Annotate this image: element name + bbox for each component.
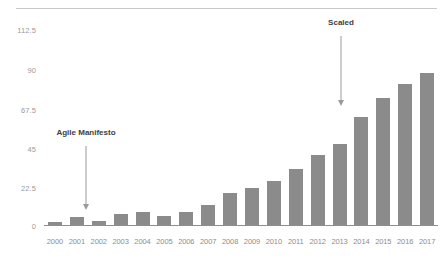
bar-2006: [179, 212, 193, 226]
bar-2016: [398, 84, 412, 226]
x-tick-label: 2017: [419, 237, 435, 246]
x-tick-slot: 2012: [307, 230, 329, 248]
bar-slot: [416, 26, 438, 226]
x-tick-slot: 2011: [285, 230, 307, 248]
annotation-label: Scaled: [328, 18, 354, 27]
x-tick-slot: 2008: [219, 230, 241, 248]
x-tick-slot: 2015: [372, 230, 394, 248]
annotation-arrow-head-icon: [338, 100, 344, 106]
bar-2010: [267, 181, 281, 226]
y-tick-label: 90: [27, 66, 36, 75]
x-tick-label: 2008: [222, 237, 238, 246]
bar-2017: [420, 73, 434, 226]
bar-slot: [44, 26, 66, 226]
x-tick-slot: 2016: [394, 230, 416, 248]
annotation-arrow-head-icon: [83, 204, 89, 210]
x-tick-label: 2014: [353, 237, 369, 246]
y-tick-label: 45: [27, 145, 36, 154]
y-axis: 112.5 90 67.5 45 22.5 0: [0, 26, 42, 227]
x-tick-label: 2004: [134, 237, 150, 246]
bar-slot: [66, 26, 88, 226]
bar-2011: [289, 169, 303, 226]
bar-slot: [372, 26, 394, 226]
x-tick-slot: 2014: [350, 230, 372, 248]
x-tick-label: 2005: [156, 237, 172, 246]
bar-slot: [132, 26, 154, 226]
y-tick-label: 112.5: [17, 26, 36, 35]
x-tick-label: 2002: [91, 237, 107, 246]
x-tick-label: 2000: [47, 237, 63, 246]
bar-slot: [307, 26, 329, 226]
x-tick-slot: 2003: [110, 230, 132, 248]
x-tick-label: 2012: [309, 237, 325, 246]
bar-2014: [354, 117, 368, 226]
annotation-label: Agile Manifesto: [56, 128, 115, 137]
annotation-arrow-line: [341, 36, 342, 102]
bar-series: [44, 26, 438, 226]
x-tick-slot: 2010: [263, 230, 285, 248]
bar-2012: [311, 155, 325, 226]
bar-2007: [201, 205, 215, 226]
bar-slot: [350, 26, 372, 226]
plot-area: [44, 26, 438, 226]
bar-2009: [245, 188, 259, 226]
bar-slot: [263, 26, 285, 226]
y-tick-label: 0: [32, 222, 36, 231]
x-tick-slot: 2006: [175, 230, 197, 248]
x-tick-slot: 2004: [132, 230, 154, 248]
bar-slot: [394, 26, 416, 226]
bar-slot: [88, 26, 110, 226]
x-tick-label: 2007: [200, 237, 216, 246]
annotation-arrow-line: [86, 146, 87, 206]
bar-2008: [223, 193, 237, 226]
x-tick-label: 2006: [178, 237, 194, 246]
bar-2013: [333, 144, 347, 226]
x-tick-slot: 2013: [329, 230, 351, 248]
x-tick-label: 2015: [375, 237, 391, 246]
x-tick-slot: 2001: [66, 230, 88, 248]
x-tick-slot: 2017: [416, 230, 438, 248]
bar-slot: [197, 26, 219, 226]
x-tick-label: 2003: [112, 237, 128, 246]
bar-slot: [219, 26, 241, 226]
x-tick-label: 2016: [397, 237, 413, 246]
x-tick-slot: 2009: [241, 230, 263, 248]
x-tick-label: 2009: [244, 237, 260, 246]
x-tick-label: 2013: [331, 237, 347, 246]
x-tick-slot: 2005: [153, 230, 175, 248]
x-tick-label: 2011: [288, 237, 304, 246]
top-divider: [16, 8, 437, 9]
bar-slot: [153, 26, 175, 226]
x-axis: 2000 2001 2002 2003 2004 2005 2006 2007 …: [44, 230, 438, 248]
x-tick-slot: 2002: [88, 230, 110, 248]
bar-chart: 112.5 90 67.5 45 22.5 0: [0, 0, 445, 259]
x-tick-slot: 2000: [44, 230, 66, 248]
y-tick-label: 22.5: [21, 184, 36, 193]
bar-slot: [175, 26, 197, 226]
bar-2004: [136, 212, 150, 226]
bar-slot: [110, 26, 132, 226]
bar-slot: [285, 26, 307, 226]
x-axis-line: [44, 225, 438, 226]
x-tick-label: 2010: [266, 237, 282, 246]
y-tick-label: 67.5: [21, 106, 36, 115]
x-tick-label: 2001: [69, 237, 85, 246]
x-tick-slot: 2007: [197, 230, 219, 248]
bar-2015: [376, 98, 390, 226]
bar-slot: [241, 26, 263, 226]
